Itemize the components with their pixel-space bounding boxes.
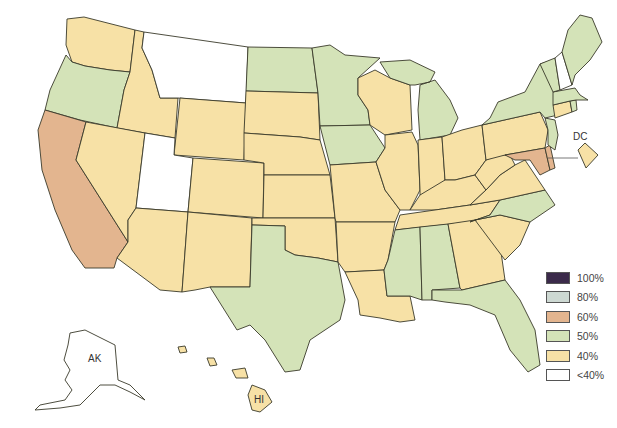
hi-label: HI [254,394,264,405]
us-choropleth-map: DC AK HI [0,0,617,428]
state-SD [244,91,320,140]
state-HI-maui [232,368,248,378]
state-AZ [117,208,188,292]
legend-label: 50% [577,330,598,342]
legend-swatch [546,272,570,284]
legend-swatch [546,291,570,303]
legend-label: 80% [577,291,598,303]
state-FL [432,280,540,372]
legend-swatch [546,369,570,381]
state-CO [188,158,264,218]
legend-label: <40% [577,369,604,381]
legend-item-50: 50% [546,328,616,345]
legend-item-60: 60% [546,308,616,325]
state-HI-oahu [207,358,217,366]
legend-label: 100% [577,272,604,284]
state-WY [174,98,246,160]
state-KS [263,175,335,218]
legend-label: 40% [577,350,598,362]
legend-item-100: 100% [546,269,616,286]
legend-item-lt40: <40% [546,367,616,384]
legend-swatch [546,330,570,342]
legend-swatch [546,350,570,362]
state-HI-kauai [178,346,187,353]
state-NM [182,212,252,292]
state-ND [246,47,318,93]
dc-label: DC [573,131,587,142]
state-AK [35,330,145,410]
legend-item-40: 40% [546,347,616,364]
legend-item-80: 80% [546,289,616,306]
state-IA [320,125,385,165]
legend: 100% 80% 60% 50% 40% <40% [546,269,616,386]
state-DC [578,143,598,168]
legend-label: 60% [577,311,598,323]
legend-swatch [546,311,570,323]
ak-label: AK [88,353,102,364]
